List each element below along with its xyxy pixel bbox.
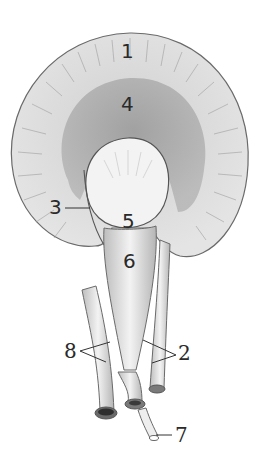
kidney-illustration (0, 0, 262, 472)
ureter-trunk (104, 226, 157, 370)
ureter-lower (138, 408, 159, 441)
label-7: 7 (175, 425, 188, 445)
label-4: 4 (121, 94, 134, 114)
label-8: 8 (64, 341, 77, 361)
renal-vein-center (118, 372, 145, 409)
label-5: 5 (122, 211, 135, 231)
label-3: 3 (49, 197, 62, 217)
label-6: 6 (123, 251, 136, 271)
label-1: 1 (121, 41, 134, 61)
label-2: 2 (178, 343, 191, 363)
